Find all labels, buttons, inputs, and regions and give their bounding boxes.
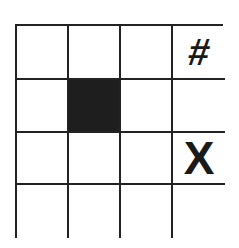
grid-cell-r3-c3[interactable] — [121, 133, 173, 185]
grid-cell-r2-c4[interactable] — [173, 80, 225, 133]
grid-cell-r1-c3[interactable] — [121, 26, 173, 80]
grid-cell-r2-c3[interactable] — [121, 80, 173, 133]
puzzle-grid: # X — [15, 24, 223, 238]
grid-cell-r4-c3[interactable] — [121, 185, 173, 238]
grid-cell-r1-c2[interactable] — [69, 26, 121, 80]
grid-cell-r3-c1[interactable] — [17, 133, 69, 185]
grid-cell-r2-c1[interactable] — [17, 80, 69, 133]
grid-cell-r3-c2[interactable] — [69, 133, 121, 185]
grid-cell-r4-c1[interactable] — [17, 185, 69, 238]
hash-symbol: # — [186, 33, 212, 71]
grid-cell-r1-c4[interactable]: # — [173, 26, 225, 80]
grid-cell-r1-c1[interactable] — [17, 26, 69, 80]
grid-cell-r4-c4[interactable] — [173, 185, 225, 238]
x-mark-symbol: X — [184, 135, 215, 181]
grid-cell-r4-c2[interactable] — [69, 185, 121, 238]
grid-cell-r3-c4[interactable]: X — [173, 133, 225, 185]
grid-cell-r2-c2-filled[interactable] — [69, 80, 121, 133]
